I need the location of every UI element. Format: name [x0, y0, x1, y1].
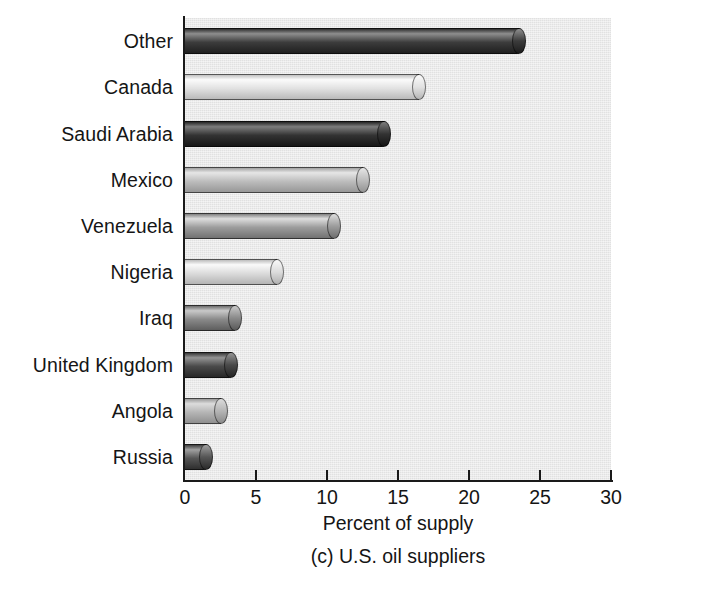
x-axis-label: Percent of supply	[185, 512, 611, 535]
category-label: Saudi Arabia	[61, 124, 173, 144]
figure-oil-suppliers: OtherCanadaSaudi ArabiaMexicoVenezuelaNi…	[0, 0, 718, 601]
x-tick-label: 15	[387, 486, 409, 508]
bar-venezuela	[185, 213, 341, 239]
bar-body	[185, 213, 334, 239]
x-tick	[468, 470, 470, 482]
x-tick-label: 20	[458, 486, 480, 508]
category-label: Canada	[104, 77, 173, 97]
bar-nigeria	[185, 259, 284, 285]
y-axis-line	[183, 16, 185, 482]
bar-end-cap	[356, 167, 370, 193]
x-tick-label: 30	[600, 486, 622, 508]
bar-end-cap	[270, 259, 284, 285]
category-label: Mexico	[111, 170, 173, 190]
category-label: Iraq	[139, 308, 173, 328]
category-label: Angola	[112, 401, 173, 421]
category-label: Russia	[113, 447, 173, 467]
x-tick	[255, 470, 257, 482]
bar-end-cap	[214, 398, 228, 424]
category-label: Other	[124, 31, 173, 51]
bar-body	[185, 121, 384, 147]
bar-end-cap	[412, 74, 426, 100]
x-tick	[326, 470, 328, 482]
bar-body	[185, 74, 419, 100]
bar-end-cap	[228, 305, 242, 331]
bar-canada	[185, 74, 426, 100]
bar-iraq	[185, 305, 242, 331]
bar-body	[185, 167, 363, 193]
bar-end-cap	[327, 213, 341, 239]
x-tick-label: 0	[180, 486, 191, 508]
x-tick-label: 10	[316, 486, 338, 508]
x-tick	[610, 470, 612, 482]
bar-body	[185, 28, 519, 54]
bar-saudi-arabia	[185, 121, 391, 147]
category-labels: OtherCanadaSaudi ArabiaMexicoVenezuelaNi…	[0, 18, 178, 480]
x-tick	[539, 470, 541, 482]
bar-mexico	[185, 167, 370, 193]
bar-united-kingdom	[185, 352, 238, 378]
figure-caption: (c) U.S. oil suppliers	[185, 545, 611, 568]
x-tick-label: 25	[529, 486, 551, 508]
category-label: Nigeria	[111, 262, 173, 282]
x-tick	[397, 470, 399, 482]
bar-end-cap	[512, 28, 526, 54]
bar-end-cap	[199, 444, 213, 470]
category-label: Venezuela	[81, 216, 173, 236]
bar-russia	[185, 444, 213, 470]
bar-end-cap	[224, 352, 238, 378]
category-label: United Kingdom	[33, 355, 173, 375]
x-tick-label: 5	[251, 486, 262, 508]
bar-end-cap	[377, 121, 391, 147]
bar-angola	[185, 398, 228, 424]
bar-other	[185, 28, 526, 54]
bar-body	[185, 259, 277, 285]
